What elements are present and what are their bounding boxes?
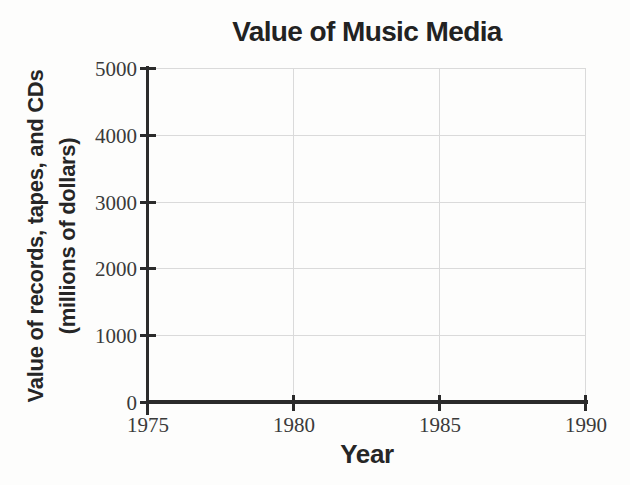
y-axis-tick [140, 67, 156, 70]
x-tick-label: 1980 [254, 414, 334, 436]
x-axis-tick [584, 395, 587, 411]
y-tick-label: 2000 [57, 258, 137, 280]
h-gridline [148, 68, 586, 69]
chart-figure: Value of Music Media Value of records, t… [0, 0, 630, 485]
x-tick-label: 1985 [400, 414, 480, 436]
y-axis-tick [140, 267, 156, 270]
x-axis-tick [292, 395, 295, 411]
h-gridline [148, 135, 586, 136]
h-gridline [148, 202, 586, 203]
x-axis-line [146, 400, 588, 404]
h-gridline [148, 335, 586, 336]
y-axis-tick [140, 201, 156, 204]
y-tick-label: 4000 [57, 125, 137, 147]
x-tick-label: 1975 [108, 414, 188, 436]
y-tick-label: 0 [57, 392, 137, 414]
y-axis-label-line-2: (millions of dollars) [55, 61, 81, 411]
x-tick-label: 1990 [546, 414, 626, 436]
y-axis-line [146, 66, 149, 415]
y-axis-tick [140, 401, 156, 404]
y-axis-tick [140, 134, 156, 137]
y-tick-label: 1000 [57, 325, 137, 347]
y-axis-label-line-1: Value of records, tapes, and CDs [23, 61, 49, 411]
y-axis-tick [140, 334, 156, 337]
y-tick-label: 5000 [57, 58, 137, 80]
h-gridline [148, 268, 586, 269]
x-axis-tick [438, 395, 441, 411]
chart-title: Value of Music Media [148, 16, 586, 48]
v-gridline [585, 69, 586, 403]
x-axis-label: Year [148, 439, 586, 470]
v-gridline [439, 69, 440, 403]
y-tick-label: 3000 [57, 192, 137, 214]
v-gridline [293, 69, 294, 403]
plot-area [148, 69, 586, 403]
